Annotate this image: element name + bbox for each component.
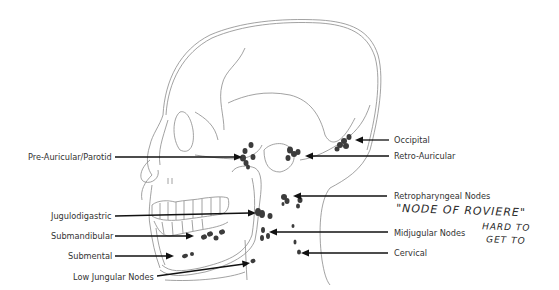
label-retro-auricular: Retro-Auricular (394, 151, 455, 161)
pre-auricular-nodes (240, 142, 256, 170)
arrow-midjugular (269, 229, 388, 236)
skull-outline (141, 20, 381, 285)
retro-auricular-nodes (286, 147, 301, 162)
arrow-low-jugular (157, 261, 250, 277)
handwritten-note-hard-to: HARD TO (482, 221, 531, 233)
handwritten-note-get-to: GET TO (486, 234, 526, 245)
label-midjugular: Midjugular Nodes (394, 228, 465, 238)
arrow-submental (115, 253, 174, 260)
label-submental: Submental (68, 251, 112, 261)
submandibular-nodes (200, 229, 225, 241)
label-cervical: Cervical (394, 248, 427, 258)
low-jugular-nodes (250, 258, 256, 263)
midjugular-nodes (260, 224, 297, 245)
arrow-retro-auricular (305, 153, 389, 160)
label-pre-auricular: Pre-Auricular/Parotid (28, 152, 112, 162)
label-occipital: Occipital (394, 135, 430, 145)
teeth (152, 197, 229, 236)
arrow-retropharyngeal (293, 193, 387, 200)
arrow-pre-auricular (115, 154, 242, 161)
lymph-nodes (182, 134, 352, 264)
label-jugulodigastric: Jugulodigastric (51, 211, 112, 221)
label-retropharyngeal: Retropharyngeal Nodes (394, 191, 490, 201)
label-low-jugular: Low Jungular Nodes (73, 272, 154, 282)
submental-nodes (182, 252, 194, 259)
arrow-jugulodigastric (115, 210, 256, 217)
lymph-node-diagram: Pre-Auricular/Parotid Jugulodigastric Su… (0, 0, 559, 290)
jugulodigastric-nodes (255, 208, 273, 219)
arrow-cervical (301, 250, 388, 257)
label-submandibular: Submandibular (51, 231, 113, 241)
skull-illustration (0, 0, 559, 290)
cervical-nodes (297, 250, 301, 255)
